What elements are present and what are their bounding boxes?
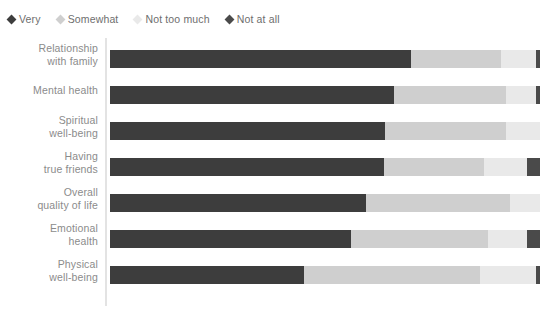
stacked-bar-chart: VerySomewhatNot too muchNot at all Relat… — [0, 0, 551, 318]
bar-segment-not-too-much[interactable]: 9% — [488, 230, 527, 248]
bar-segment-somewhat[interactable]: 21% — [411, 50, 501, 68]
diamond-icon — [133, 14, 143, 24]
chart-row: Physicalwell-being45%41%13%1% — [0, 254, 551, 290]
legend-item-label: Not at all — [237, 13, 280, 25]
row-category-label: Overallquality of life — [0, 186, 98, 211]
chart-row: Overallquality of life59%33%7% — [0, 182, 551, 218]
legend-item-very[interactable]: Very — [8, 13, 41, 25]
chart-row: Relationshipwith family70%21%8%1% — [0, 38, 551, 74]
bar-segment-very[interactable]: 56% — [110, 230, 351, 248]
diamond-icon — [224, 14, 234, 24]
row-category-label: Emotionalhealth — [0, 222, 98, 247]
row-category-label-line1: Physical — [0, 258, 98, 271]
bar-segment-not-too-much[interactable]: 7% — [510, 194, 540, 212]
legend-item-label: Somewhat — [68, 13, 119, 25]
bar-segment-very[interactable]: 63% — [110, 158, 384, 176]
diamond-icon — [55, 14, 65, 24]
bar-segment-not-too-much[interactable]: 13% — [480, 266, 536, 284]
bar-segment-very[interactable]: 59% — [110, 194, 366, 212]
row-category-label-line1: Mental health — [0, 84, 98, 97]
stacked-bar: 59%33%7% — [110, 194, 540, 212]
legend-item-somewhat[interactable]: Somewhat — [57, 13, 119, 25]
bar-segment-not-too-much[interactable]: 10% — [484, 158, 527, 176]
bar-segment-somewhat[interactable]: 28% — [385, 122, 505, 140]
chart-row: Mental health66%26%7%1% — [0, 74, 551, 110]
row-category-label-line1: Relationship — [0, 42, 98, 55]
stacked-bar: 63%23%10%3% — [110, 158, 540, 176]
bar-segment-not-too-much[interactable]: 8% — [501, 50, 535, 68]
stacked-bar: 66%26%7%1% — [110, 86, 540, 104]
bar-segment-not-too-much[interactable]: 7% — [506, 86, 536, 104]
legend-item-label: Not too much — [145, 13, 209, 25]
bar-segment-somewhat[interactable]: 33% — [366, 194, 509, 212]
row-category-label-line1: Spiritual — [0, 114, 98, 127]
bar-segment-somewhat[interactable]: 41% — [304, 266, 480, 284]
bar-segment-not-at-all[interactable]: 1% — [536, 266, 540, 284]
bar-segment-not-too-much[interactable]: 8% — [506, 122, 540, 140]
legend-item-not-too-much[interactable]: Not too much — [134, 13, 209, 25]
chart-row: Emotionalhealth56%32%9%3% — [0, 218, 551, 254]
bar-segment-somewhat[interactable]: 32% — [351, 230, 489, 248]
row-category-label-line1: Having — [0, 150, 98, 163]
legend-item-not-at-all[interactable]: Not at all — [226, 13, 280, 25]
stacked-bar: 56%32%9%3% — [110, 230, 540, 248]
chart-legend: VerySomewhatNot too muchNot at all — [8, 11, 280, 27]
bar-rows: Relationshipwith family70%21%8%1%Mental … — [0, 38, 551, 290]
row-category-label-line2: well-being — [0, 271, 98, 284]
row-category-label-line2: with family — [0, 55, 98, 68]
bar-segment-not-at-all[interactable]: 1% — [536, 86, 540, 104]
row-category-label-line2: health — [0, 235, 98, 248]
chart-row: Spiritualwell-being64%28%8% — [0, 110, 551, 146]
row-category-label: Physicalwell-being — [0, 258, 98, 283]
row-category-label-line1: Overall — [0, 186, 98, 199]
row-category-label: Havingtrue friends — [0, 150, 98, 175]
legend-item-label: Very — [19, 13, 41, 25]
row-category-label-line1: Emotional — [0, 222, 98, 235]
bar-segment-not-at-all[interactable]: 3% — [527, 158, 540, 176]
bar-segment-somewhat[interactable]: 23% — [384, 158, 484, 176]
stacked-bar: 64%28%8% — [110, 122, 540, 140]
row-category-label-line2: quality of life — [0, 199, 98, 212]
row-category-label-line2: well-being — [0, 127, 98, 140]
bar-segment-not-at-all[interactable]: 3% — [527, 230, 540, 248]
diamond-icon — [7, 14, 17, 24]
chart-row: Havingtrue friends63%23%10%3% — [0, 146, 551, 182]
bar-segment-very[interactable]: 64% — [110, 122, 385, 140]
bar-segment-very[interactable]: 66% — [110, 86, 394, 104]
bar-segment-somewhat[interactable]: 26% — [394, 86, 506, 104]
bar-segment-very[interactable]: 70% — [110, 50, 411, 68]
bar-segment-very[interactable]: 45% — [110, 266, 304, 284]
stacked-bar: 70%21%8%1% — [110, 50, 540, 68]
row-category-label: Mental health — [0, 84, 98, 97]
stacked-bar: 45%41%13%1% — [110, 266, 540, 284]
plot-area: Relationshipwith family70%21%8%1%Mental … — [0, 38, 551, 310]
row-category-label: Relationshipwith family — [0, 42, 98, 67]
bar-segment-not-at-all[interactable]: 1% — [536, 50, 540, 68]
row-category-label: Spiritualwell-being — [0, 114, 98, 139]
row-category-label-line2: true friends — [0, 163, 98, 176]
